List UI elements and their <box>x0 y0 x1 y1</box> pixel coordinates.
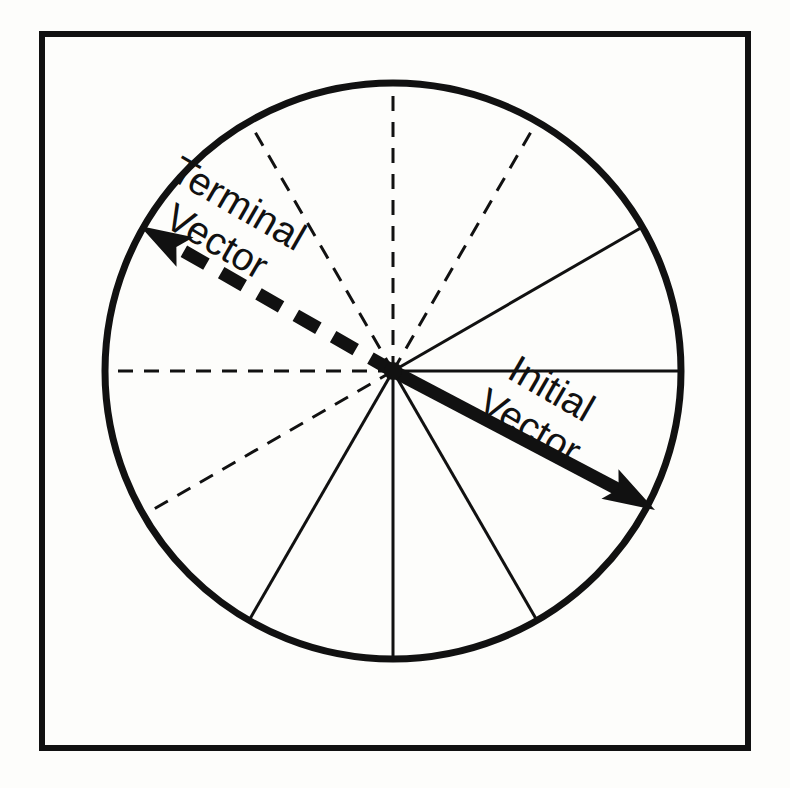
page-background <box>0 0 790 788</box>
vector-rotation-diagram: Initial Vector Terminal Vector <box>0 0 790 788</box>
center-hub <box>384 362 402 380</box>
figure-root: Initial Vector Terminal Vector <box>0 0 790 788</box>
